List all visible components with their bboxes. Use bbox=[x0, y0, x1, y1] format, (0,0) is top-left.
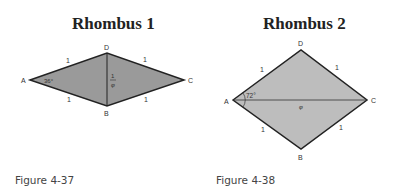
diagrams: A D C B 1 1 1 1 36° 1 φ A D C B 1 1 1 1 … bbox=[0, 0, 398, 188]
rhombus-2-vertex-a: A bbox=[224, 98, 229, 105]
rhombus-2-side-bc: 1 bbox=[339, 124, 343, 131]
rhombus-1-diagonal-den: φ bbox=[111, 82, 115, 88]
rhombus-1-angle-label: 36° bbox=[44, 78, 54, 84]
rhombus-2-angle-label: 72° bbox=[246, 92, 256, 99]
rhombus-1-side-dc: 1 bbox=[143, 56, 147, 63]
rhombus-2-side-ad: 1 bbox=[260, 66, 264, 73]
rhombus-1-vertex-b: B bbox=[104, 110, 109, 117]
rhombus-1-side-ad: 1 bbox=[66, 57, 70, 64]
rhombus-1-vertex-a: A bbox=[21, 77, 26, 84]
figure-4-38-caption: Figure 4-38 bbox=[216, 174, 275, 186]
rhombus-1-vertex-c: C bbox=[188, 77, 193, 84]
figure-4-37-caption: Figure 4-37 bbox=[15, 174, 74, 186]
rhombus-1-side-ab: 1 bbox=[67, 96, 71, 103]
rhombus-1-side-bc: 1 bbox=[144, 96, 148, 103]
rhombus-2-diagram: A D C B 1 1 1 1 72° φ bbox=[224, 40, 376, 161]
rhombus-2-vertex-b: B bbox=[298, 154, 303, 161]
rhombus-2-side-ab: 1 bbox=[261, 126, 265, 133]
rhombus-1-vertex-d: D bbox=[104, 44, 109, 51]
rhombus-2-vertex-c: C bbox=[371, 97, 376, 104]
rhombus-2-diagonal-label: φ bbox=[299, 104, 303, 110]
rhombus-2-vertex-d: D bbox=[298, 40, 303, 47]
rhombus-1-diagram: A D C B 1 1 1 1 36° 1 φ bbox=[21, 44, 193, 117]
rhombus-2-shape bbox=[233, 50, 367, 149]
rhombus-2-side-dc: 1 bbox=[335, 64, 339, 71]
